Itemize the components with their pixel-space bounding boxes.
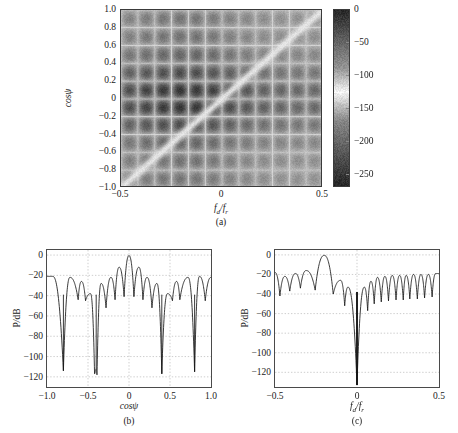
panel-c-xtick: −0.5: [266, 391, 283, 401]
panel-b-ytick: −80: [17, 331, 43, 341]
panel-a-ytick: 0.6: [94, 40, 116, 50]
colorbar-tick-mark: [346, 141, 349, 142]
panel-c-ytick: −120: [245, 367, 271, 377]
colorbar-tick-label: −150: [354, 103, 374, 113]
panel-a-ytick: 0.4: [94, 57, 116, 67]
panel-b-ytick: −120: [17, 372, 43, 382]
panel-a-xtick: −0.5: [111, 189, 128, 199]
colorbar-tick-label: −200: [354, 136, 374, 146]
panel-b-gridlines: [47, 250, 211, 387]
colorbar-tick-mark: [346, 174, 349, 175]
colorbar-tick-mark: [346, 75, 349, 76]
panel-c-ytick: −20: [245, 269, 271, 279]
panel-c-plot-area: [274, 249, 440, 388]
panel-c-curve-svg: [275, 250, 439, 387]
panel-b-ytick: −40: [17, 291, 43, 301]
panel-b-ytick: −20: [17, 270, 43, 280]
colorbar-tick-mark: [346, 42, 349, 43]
panel-a-ylabel: cosψ: [63, 89, 73, 108]
panel-b-plot-area: [46, 249, 212, 388]
panel-b-xtick: 1.0: [205, 391, 217, 401]
colorbar-tick-label: 0: [354, 4, 359, 14]
panel-c-ylabel: P/dB: [240, 308, 250, 327]
panel-a-xtick: 0.5: [316, 189, 328, 199]
panel-a-caption: (a): [216, 217, 227, 227]
panel-a-ytick: 1.0: [94, 4, 116, 14]
panel-b-xtick: −0.5: [79, 391, 96, 401]
colorbar-tick-label: −50: [354, 37, 369, 47]
colorbar: [333, 9, 350, 187]
panel-a-ytick: 0: [94, 93, 116, 103]
panel-a-ytick: 0.2: [94, 75, 116, 85]
heatmap-image: [121, 10, 322, 187]
panel-c-ytick: −80: [245, 328, 271, 338]
panel-c-ytick: 0: [245, 250, 271, 260]
heatmap-plot-area: [120, 9, 322, 187]
panel-c-xtick: 0: [355, 391, 360, 401]
panel-c-ytick: −100: [245, 348, 271, 358]
panel-a-ytick: −0.6: [94, 146, 116, 156]
panel-c-caption: (c): [352, 416, 363, 426]
panel-b-xtick: 0: [127, 391, 132, 401]
panel-b-ylabel: P/dB: [12, 308, 22, 327]
colorbar-tick-mark: [346, 108, 349, 109]
panel-a-ytick: −0.4: [94, 129, 116, 139]
panel-b-ytick: −100: [17, 352, 43, 362]
panel-c-ytick: −40: [245, 289, 271, 299]
panel-b-caption: (b): [123, 416, 134, 426]
panel-c-xtick: 0.5: [433, 391, 445, 401]
panel-a-ytick: 0.8: [94, 22, 116, 32]
panel-c-xlabel: fd/fr: [350, 401, 364, 414]
colorbar-tick-label: −100: [354, 70, 374, 80]
panel-b-xtick: −1.0: [38, 391, 55, 401]
panel-a-ytick: −0.2: [94, 111, 116, 121]
panel-b-curve-svg: [47, 250, 211, 387]
colorbar-gradient: [334, 10, 350, 187]
panel-b-xlabel: cosψ: [120, 401, 139, 411]
panel-a-xlabel: fd/fr: [214, 203, 228, 216]
panel-a-xtick: 0: [219, 189, 224, 199]
colorbar-tick-label: −250: [354, 169, 374, 179]
panel-b-ytick: 0: [17, 250, 43, 260]
panel-b-xtick: 0.5: [164, 391, 176, 401]
panel-a-ytick: −0.8: [94, 164, 116, 174]
